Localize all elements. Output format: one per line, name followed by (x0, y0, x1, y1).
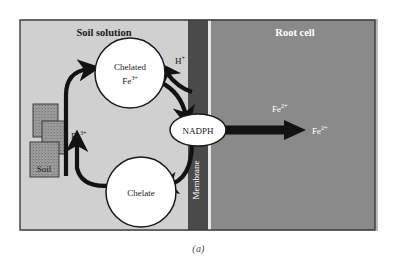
node-nadph: NADPH (170, 114, 226, 146)
figure-caption: (a) (0, 243, 397, 254)
label-fe2-cytosol-sup: 2+ (321, 124, 328, 131)
label-fe2-membrane-base: Fe (272, 104, 281, 114)
node-chelate-label: Chelate (127, 188, 155, 198)
label-fe2-membrane-sup: 2+ (281, 102, 288, 109)
node-chelated-fe3: Chelated Fe3+ (95, 38, 165, 108)
soil-block-label: Soil (37, 164, 52, 174)
region-title-soil-solution: Soil solution (76, 27, 131, 38)
node-nadph-label: NADPH (182, 126, 214, 136)
label-fe2-cytosol-base: Fe (312, 126, 321, 136)
node-chelated-fe3-base: Fe (122, 76, 131, 86)
region-title-membrane: Membrane (191, 161, 201, 200)
iron-uptake-diagram: Soil solution Root cell Membrane Soil (0, 0, 397, 266)
figure-container: Soil solution Root cell Membrane Soil (0, 0, 397, 266)
node-chelate: Chelate (106, 157, 176, 227)
node-chelated-fe3-sup: 3+ (131, 74, 138, 81)
label-h-plus-sup: + (182, 54, 186, 61)
label-fe3-soil-sup: 3+ (80, 129, 87, 136)
node-chelated-fe3-line1: Chelated (114, 62, 146, 72)
label-fe3-soil-base: Fe (71, 131, 80, 141)
region-title-root-cell: Root cell (275, 27, 314, 38)
